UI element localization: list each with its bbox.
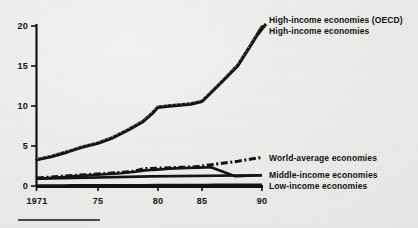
x-tick-label-90: 90 [249, 196, 275, 206]
legend-label-middle-income-economies: Middle-income economies [269, 170, 378, 180]
series-high-income-economies-oecd [37, 27, 262, 160]
x-tick-label-80: 80 [145, 196, 171, 206]
series-high-income-economies-texture [37, 26, 262, 159]
footer-rule [18, 219, 100, 221]
legend-label-high-income-economies: High-income economies [269, 26, 369, 36]
chart-figure: 20 15 10 5 0 1971 75 80 85 90 High-incom… [0, 0, 418, 228]
x-tick-label-1971: 1971 [20, 196, 54, 206]
y-tick-label-0: 0 [2, 181, 28, 191]
legend-label-world-average-economies: World-average economies [269, 153, 377, 163]
legend-label-low-income-economies: Low-income economies [269, 181, 367, 191]
y-tick-label-20: 20 [2, 21, 28, 31]
y-axis-ticks [31, 26, 36, 186]
series-middle-income-economies-tail [150, 175, 262, 176]
x-tick-label-85: 85 [189, 196, 215, 206]
x-tick-label-75: 75 [85, 196, 111, 206]
y-tick-label-5: 5 [2, 141, 28, 151]
y-tick-label-15: 15 [2, 61, 28, 71]
legend-label-high-income-economies-oecd: High-income economies (OECD) [269, 15, 403, 25]
series-low-income-economies [37, 185, 262, 186]
y-tick-label-10: 10 [2, 101, 28, 111]
